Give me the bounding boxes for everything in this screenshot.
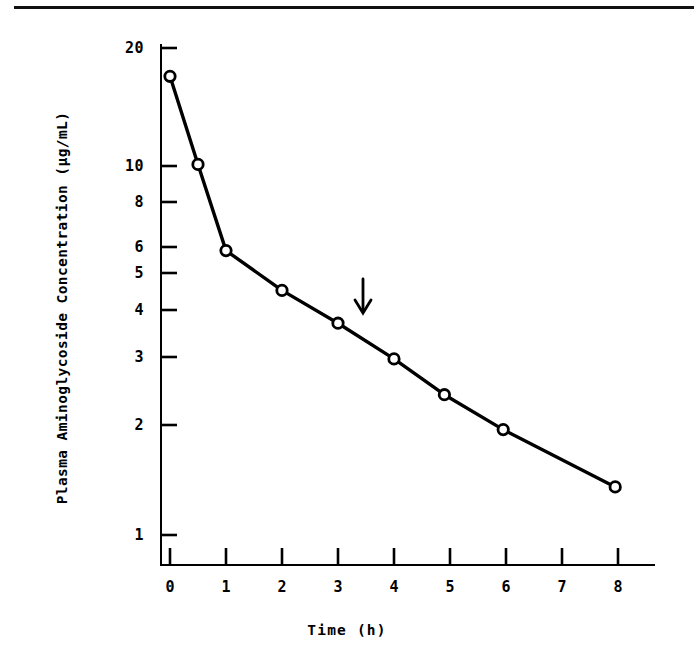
plot-svg	[0, 0, 694, 670]
data-point-2	[221, 245, 231, 255]
x-axis-ticks	[170, 548, 618, 565]
data-point-4	[333, 318, 343, 328]
data-point-7	[498, 424, 508, 434]
data-point-8	[610, 482, 620, 492]
data-point-0	[165, 71, 175, 81]
data-point-3	[277, 285, 287, 295]
figure-canvas: Plasma Aminoglycoside Concentration (µg/…	[0, 0, 694, 670]
annotation-arrow-icon	[355, 279, 371, 313]
axis-spines	[160, 44, 655, 566]
data-point-6	[439, 390, 449, 400]
data-point-markers	[165, 71, 621, 492]
data-point-5	[389, 354, 399, 364]
y-axis-ticks	[161, 48, 177, 535]
data-point-1	[193, 159, 203, 169]
data-series-line	[170, 76, 615, 487]
